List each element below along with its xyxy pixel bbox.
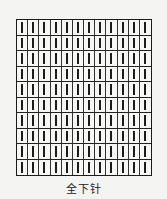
purl-stitch-icon <box>88 53 90 64</box>
chart-cell <box>62 36 73 52</box>
purl-stitch-icon <box>133 69 135 80</box>
chart-cell <box>17 98 28 114</box>
purl-stitch-icon <box>144 22 146 33</box>
chart-cell <box>95 160 106 176</box>
chart-cell <box>118 160 129 176</box>
chart-cell <box>95 98 106 114</box>
chart-cell <box>140 160 151 176</box>
purl-stitch-icon <box>110 69 112 80</box>
chart-cell <box>140 67 151 83</box>
purl-stitch-icon <box>99 69 101 80</box>
chart-cell <box>84 129 95 145</box>
purl-stitch-icon <box>55 22 57 33</box>
purl-stitch-icon <box>144 38 146 49</box>
chart-cell <box>95 82 106 98</box>
chart-cell <box>62 160 73 176</box>
purl-stitch-icon <box>32 100 34 111</box>
chart-caption: 全下针 <box>0 180 167 196</box>
purl-stitch-icon <box>77 22 79 33</box>
purl-stitch-icon <box>21 69 23 80</box>
purl-stitch-icon <box>55 115 57 126</box>
chart-cell <box>17 20 28 36</box>
chart-cell <box>118 129 129 145</box>
chart-cell <box>62 129 73 145</box>
purl-stitch-icon <box>110 22 112 33</box>
chart-cell <box>39 36 50 52</box>
purl-stitch-icon <box>66 69 68 80</box>
purl-stitch-icon <box>43 131 45 142</box>
purl-stitch-icon <box>43 69 45 80</box>
purl-stitch-icon <box>32 131 34 142</box>
chart-cell <box>106 36 117 52</box>
chart-cell <box>106 144 117 160</box>
purl-stitch-icon <box>77 84 79 95</box>
purl-stitch-icon <box>88 38 90 49</box>
chart-cell <box>106 160 117 176</box>
purl-stitch-icon <box>77 100 79 111</box>
purl-stitch-icon <box>144 100 146 111</box>
chart-cell <box>51 160 62 176</box>
purl-stitch-icon <box>133 131 135 142</box>
chart-cell <box>39 82 50 98</box>
chart-cell <box>129 129 140 145</box>
chart-cell <box>95 129 106 145</box>
chart-cell <box>62 98 73 114</box>
chart-cell <box>39 113 50 129</box>
purl-stitch-icon <box>43 53 45 64</box>
chart-cell <box>129 144 140 160</box>
purl-stitch-icon <box>77 38 79 49</box>
purl-stitch-icon <box>144 115 146 126</box>
chart-cell <box>118 67 129 83</box>
chart-cell <box>118 113 129 129</box>
chart-cell <box>17 129 28 145</box>
chart-cell <box>129 20 140 36</box>
chart-cell <box>51 67 62 83</box>
purl-stitch-icon <box>55 53 57 64</box>
purl-stitch-icon <box>55 131 57 142</box>
purl-stitch-icon <box>77 53 79 64</box>
purl-stitch-icon <box>21 22 23 33</box>
purl-stitch-icon <box>133 22 135 33</box>
purl-stitch-icon <box>43 162 45 174</box>
chart-cell <box>106 98 117 114</box>
chart-cell <box>17 144 28 160</box>
chart-cell <box>39 20 50 36</box>
purl-stitch-icon <box>43 22 45 33</box>
purl-stitch-icon <box>133 38 135 49</box>
chart-cell <box>39 51 50 67</box>
chart-cell <box>118 20 129 36</box>
chart-cell <box>51 51 62 67</box>
chart-cell <box>129 113 140 129</box>
purl-stitch-icon <box>99 146 101 157</box>
purl-stitch-icon <box>66 146 68 157</box>
chart-cell <box>118 144 129 160</box>
chart-cell <box>106 51 117 67</box>
purl-stitch-icon <box>122 84 124 95</box>
purl-stitch-icon <box>110 100 112 111</box>
chart-cell <box>28 51 39 67</box>
purl-stitch-icon <box>110 53 112 64</box>
knitting-chart-grid <box>16 19 152 176</box>
purl-stitch-icon <box>110 131 112 142</box>
chart-cell <box>62 67 73 83</box>
purl-stitch-icon <box>66 115 68 126</box>
purl-stitch-icon <box>32 146 34 157</box>
chart-cell <box>73 51 84 67</box>
chart-cell <box>84 113 95 129</box>
chart-cell <box>17 51 28 67</box>
chart-cell <box>95 20 106 36</box>
chart-cell <box>84 36 95 52</box>
chart-cell <box>129 36 140 52</box>
chart-cell <box>140 51 151 67</box>
purl-stitch-icon <box>66 53 68 64</box>
chart-cell <box>140 36 151 52</box>
chart-cell <box>73 67 84 83</box>
purl-stitch-icon <box>122 69 124 80</box>
chart-cell <box>84 82 95 98</box>
chart-cell <box>140 98 151 114</box>
chart-cell <box>73 160 84 176</box>
chart-cell <box>28 67 39 83</box>
chart-cell <box>39 160 50 176</box>
chart-cell <box>17 160 28 176</box>
purl-stitch-icon <box>99 38 101 49</box>
